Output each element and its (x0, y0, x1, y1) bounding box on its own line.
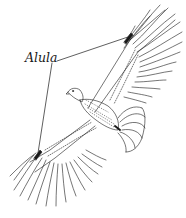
right-wing (88, 5, 182, 112)
left-wing (10, 120, 106, 206)
eagle-alula-diagram: Alula (0, 0, 186, 218)
tail (118, 107, 145, 152)
eagle-illustration (0, 0, 186, 218)
alula-label: Alula (25, 51, 58, 65)
